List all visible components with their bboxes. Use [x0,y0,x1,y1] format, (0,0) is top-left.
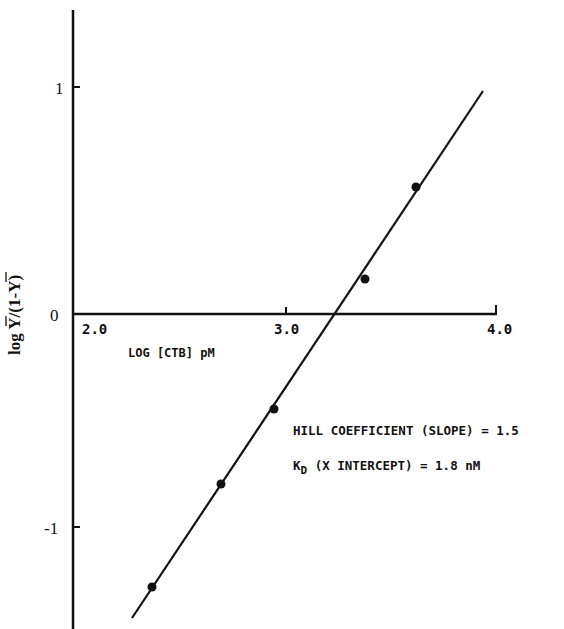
data-point [412,183,421,192]
hill-coefficient-annotation: HILL COEFFICIENT (SLOPE) = 1.5 [293,423,519,438]
data-point [270,405,279,414]
y-axis-label-prefix: log [5,330,24,355]
data-point [361,275,370,284]
x-tick-label-4: 4.0 [487,321,512,337]
y-tick-label-neg1: -1 [44,519,58,538]
data-points [148,183,421,592]
y-axis-label: log Y/(1-Y) [5,272,24,355]
y-tick-label-1: 1 [55,79,64,98]
data-point [217,480,226,489]
data-point [148,583,157,592]
svg-text:log Y/(1-Y): log Y/(1-Y) [5,275,24,355]
x-axis-label: LOG [CTB] pM [128,346,215,360]
y-tick-label-0: 0 [50,306,59,325]
x-tick-label-2: 2.0 [82,321,107,337]
kd-annotation: KD (X INTERCEPT) = 1.8 nM [293,458,480,477]
y-axis-label-rest: Y/(1-Y) [5,275,24,330]
hill-plot: 1 0 -1 2.0 3.0 4.0 LOG [CTB] pM log Y/(1… [0,0,564,629]
x-tick-label-3: 3.0 [274,321,299,337]
kd-rest: (X INTERCEPT) = 1.8 nM [307,458,480,473]
